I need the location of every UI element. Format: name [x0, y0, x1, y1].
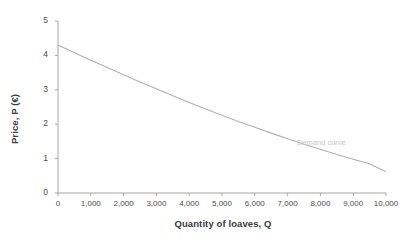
- plot-area: [0, 0, 408, 238]
- demand-curve-line: [58, 45, 386, 172]
- demand-curve-annotation-label: Demand curve: [297, 138, 346, 147]
- axis-lines: [58, 21, 386, 193]
- demand-curve-chart: Price, P (€) 01234501,0002,0003,0004,000…: [0, 0, 408, 238]
- x-axis-title: Quantity of loaves, Q: [58, 218, 388, 229]
